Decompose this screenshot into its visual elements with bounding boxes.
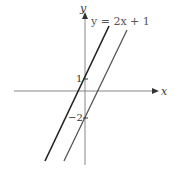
x-axis-arrow-icon bbox=[152, 88, 159, 94]
line-parallel bbox=[64, 30, 127, 161]
graph: y x y = 2x + 1 1 −2 bbox=[0, 0, 179, 177]
line-y-2x-plus-1 bbox=[45, 26, 109, 161]
y-axis-label: y bbox=[79, 2, 87, 15]
equation-label: y = 2x + 1 bbox=[90, 15, 150, 28]
x-axis-label: x bbox=[161, 85, 168, 98]
tick-label-neg2: −2 bbox=[68, 112, 83, 123]
tick-label-1: 1 bbox=[76, 73, 82, 84]
